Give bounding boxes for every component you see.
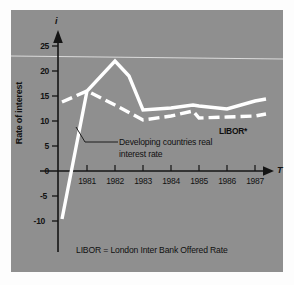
- series-label-libor: LIBOR*: [219, 126, 247, 136]
- y-tick-label-15: 15: [29, 91, 49, 101]
- y-tick-label-5: 5: [29, 141, 49, 151]
- x-tick-label-1981: 1981: [72, 176, 102, 186]
- x-axis-arrow: [263, 166, 274, 176]
- annotation-leader-line: [76, 127, 118, 142]
- x-tick-label-1983: 1983: [128, 176, 158, 186]
- x-tick-label-1987: 1987: [240, 176, 270, 186]
- x-tick-marks: [87, 165, 255, 171]
- annotation-developing-countries-line2: interest rate: [119, 148, 162, 160]
- chart-figure: i T Rate of interest 25 20 15 10 5 0 -5 …: [0, 0, 294, 285]
- x-axis-symbol: T: [277, 165, 283, 175]
- scan-artifact-line: [11, 56, 283, 59]
- y-tick-marks: [52, 46, 58, 221]
- y-tick-label-neg10: -10: [25, 216, 45, 226]
- chart-footnote: LIBOR = London Inter Bank Offered Rate: [76, 245, 228, 255]
- y-tick-label-25: 25: [29, 41, 49, 51]
- y-tick-label-20: 20: [29, 66, 49, 76]
- x-tick-label-1986: 1986: [212, 176, 242, 186]
- x-tick-label-1985: 1985: [184, 176, 214, 186]
- x-tick-label-1984: 1984: [156, 176, 186, 186]
- annotation-developing-countries-line1: Developing countries real: [119, 136, 212, 148]
- x-tick-label-1982: 1982: [100, 176, 130, 186]
- y-tick-label-0: 0: [29, 166, 49, 176]
- y-axis-title: Rate of interest: [14, 68, 24, 158]
- y-tick-label-neg5: -5: [27, 191, 47, 201]
- y-axis-arrow: [53, 30, 63, 43]
- y-tick-label-10: 10: [29, 116, 49, 126]
- y-axis-symbol: i: [55, 16, 58, 26]
